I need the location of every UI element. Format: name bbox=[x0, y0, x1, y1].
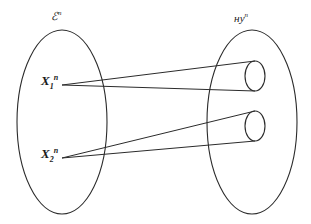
domain-set-label-superscript: n bbox=[58, 9, 62, 17]
point-label-x1-base: X bbox=[41, 73, 50, 88]
cone-lower bbox=[62, 111, 265, 158]
codomain-set-label: ʜуn bbox=[234, 11, 248, 24]
domain-set-label: ℰn bbox=[51, 9, 62, 23]
diagram-canvas bbox=[0, 0, 311, 224]
cone-lower-edge-top bbox=[62, 111, 255, 158]
cone-upper-cap-ellipse bbox=[245, 61, 265, 91]
point-label-x2-superscript: n bbox=[54, 146, 58, 155]
codomain-set-label-superscript: n bbox=[245, 11, 249, 19]
domain-set-label-base: ℰ bbox=[51, 10, 58, 22]
point-label-x2-subscript: 2 bbox=[50, 155, 54, 164]
point-label-x2-base: X bbox=[41, 146, 50, 161]
codomain-set-label-base: ʜу bbox=[234, 12, 245, 24]
cone-upper bbox=[62, 61, 265, 91]
point-label-x1-superscript: n bbox=[54, 73, 58, 82]
domain-set-ellipse bbox=[17, 30, 107, 214]
set-mapping-figure: ℰn ʜуn X1n X2n bbox=[0, 0, 311, 224]
cone-lower-edge-bottom bbox=[62, 141, 255, 158]
point-label-x1: X1n bbox=[41, 73, 58, 91]
cone-lower-cap-ellipse bbox=[245, 111, 265, 141]
point-label-x1-subscript: 1 bbox=[50, 82, 54, 91]
codomain-set-ellipse bbox=[207, 30, 297, 214]
cone-upper-edge-top bbox=[62, 61, 255, 85]
cone-upper-edge-bottom bbox=[62, 85, 255, 91]
point-label-x2: X2n bbox=[41, 146, 58, 164]
